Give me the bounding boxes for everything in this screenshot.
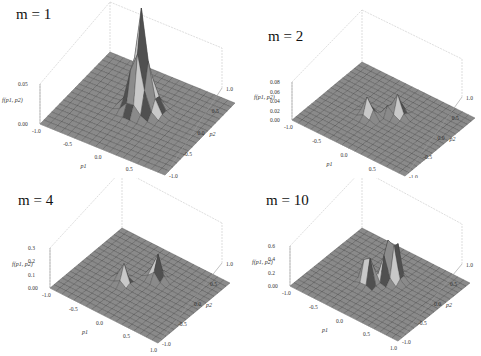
y-tick-label: 0.5 bbox=[212, 108, 219, 114]
x-tick-label: -0.5 bbox=[63, 141, 72, 147]
surface-mesh bbox=[292, 62, 475, 176]
y-tick-label: 1.0 bbox=[466, 95, 473, 101]
z-tick-label: 0.08 bbox=[270, 79, 280, 85]
x-tick-label: 0.0 bbox=[336, 318, 343, 324]
y-tick-label: 1.0 bbox=[226, 261, 233, 267]
y-tick-label: 0.5 bbox=[450, 281, 457, 287]
z-axis-label: f(p1, p2) bbox=[252, 259, 273, 266]
x-axis-label: p1 bbox=[80, 163, 87, 169]
x-tick-label: 0.0 bbox=[341, 152, 348, 158]
surface-plot: -1.0-0.50.00.51.0p1-1.0-0.50.00.51.0p20.… bbox=[0, 0, 240, 178]
z-tick-label: 0.00 bbox=[268, 283, 278, 289]
x-tick-label: 0.5 bbox=[126, 166, 133, 172]
plot-panel-m4: m = 4 -1.0-0.50.00.51.0p1-1.0-0.50.00.51… bbox=[0, 178, 240, 356]
y-tick-label: 1.0 bbox=[226, 86, 233, 92]
x-tick-label: 0.5 bbox=[369, 166, 376, 172]
surface-plot: -1.0-0.50.00.51.0p1-1.0-0.50.00.51.0p20.… bbox=[240, 178, 480, 356]
x-axis-label: p1 bbox=[321, 327, 328, 333]
y-axis-label: p2 bbox=[445, 302, 452, 308]
y-tick-label: 0.5 bbox=[210, 281, 217, 287]
x-tick-label: -1.0 bbox=[282, 290, 291, 296]
plot-panel-m1: m = 1 -1.0-0.50.00.51.0p1-1.0-0.50.00.51… bbox=[0, 0, 240, 178]
x-tick-label: -0.5 bbox=[309, 304, 318, 310]
x-tick-label: -1.0 bbox=[32, 128, 41, 134]
y-axis-label: p2 bbox=[449, 136, 456, 142]
x-axis-label: p1 bbox=[81, 329, 88, 335]
y-tick-label: 0.5 bbox=[452, 115, 459, 121]
z-tick-label: 0.00 bbox=[28, 285, 38, 291]
z-axis-label: f(p1, p2) bbox=[2, 97, 23, 104]
y-axis-label: p2 bbox=[209, 131, 216, 137]
z-tick-label: 0.6 bbox=[268, 243, 275, 249]
x-axis-label: p1 bbox=[326, 161, 333, 167]
z-tick-label: 0.00 bbox=[270, 117, 280, 123]
surface-mesh bbox=[290, 228, 470, 341]
x-tick-label: 1.0 bbox=[150, 347, 157, 353]
z-tick-label: 0.02 bbox=[270, 108, 280, 114]
y-tick-label: 0.0 bbox=[194, 301, 201, 307]
y-tick-label: -1.0 bbox=[162, 341, 171, 347]
surface-plot: -1.0-0.50.00.51.0p1-1.0-0.50.00.51.0p20.… bbox=[240, 0, 480, 178]
z-tick-label: 0.05 bbox=[18, 81, 28, 87]
plot-panel-m10: m = 10 -1.0-0.50.00.51.0p1-1.0-0.50.00.5… bbox=[240, 178, 480, 356]
z-tick-label: 0.3 bbox=[28, 245, 35, 251]
y-tick-label: 1.0 bbox=[466, 262, 473, 268]
x-tick-label: 0.5 bbox=[363, 331, 370, 337]
y-tick-label: -0.5 bbox=[418, 320, 427, 326]
surface-plot: -1.0-0.50.00.51.0p1-1.0-0.50.00.51.0p20.… bbox=[0, 178, 240, 356]
x-tick-label: -0.5 bbox=[69, 306, 78, 312]
z-axis-label: f(p1, p2) bbox=[254, 94, 275, 101]
x-tick-label: 1.0 bbox=[390, 345, 397, 351]
y-axis-label: p2 bbox=[205, 302, 212, 308]
x-tick-label: -1.0 bbox=[42, 292, 51, 298]
z-tick-label: 0.00 bbox=[18, 121, 28, 127]
y-tick-label: 0.0 bbox=[438, 135, 445, 141]
x-tick-label: -1.0 bbox=[284, 124, 293, 130]
z-tick-label: 0.1 bbox=[28, 272, 35, 278]
surface-mesh bbox=[40, 8, 235, 175]
y-tick-label: -0.5 bbox=[183, 151, 192, 157]
y-tick-label: -0.5 bbox=[178, 321, 187, 327]
z-tick-label: 0.2 bbox=[268, 270, 275, 276]
x-tick-label: 0.0 bbox=[95, 154, 102, 160]
y-tick-label: -1.0 bbox=[402, 339, 411, 345]
x-tick-label: 0.0 bbox=[96, 320, 103, 326]
y-tick-label: 0.0 bbox=[198, 130, 205, 136]
y-tick-label: 0.0 bbox=[434, 301, 441, 307]
surface-mesh bbox=[50, 228, 230, 343]
x-tick-label: -0.5 bbox=[312, 138, 321, 144]
x-tick-label: 0.5 bbox=[123, 333, 130, 339]
z-axis-label: f(p1, p2) bbox=[12, 261, 33, 268]
plot-panel-m2: m = 2 -1.0-0.50.00.51.0p1-1.0-0.50.00.51… bbox=[240, 0, 480, 178]
y-tick-label: -0.5 bbox=[423, 154, 432, 160]
